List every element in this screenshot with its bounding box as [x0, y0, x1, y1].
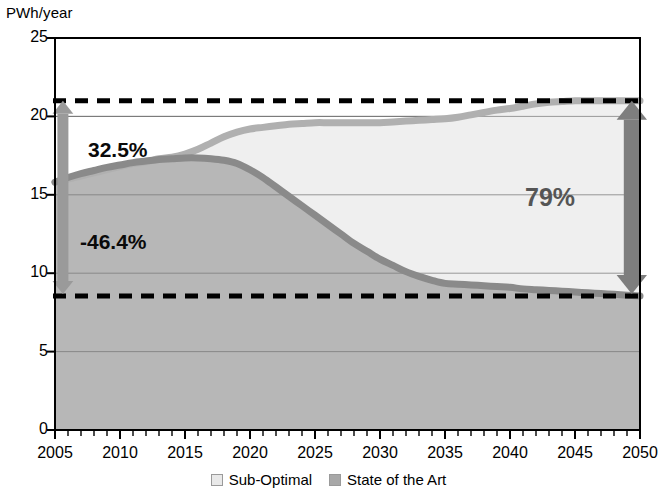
legend-item-state-of-the-art: State of the Art: [329, 471, 446, 488]
x-tick-label: 2025: [285, 444, 345, 462]
y-tick-label: 20: [8, 106, 48, 124]
x-tick-label: 2045: [545, 444, 605, 462]
y-axis-line: [54, 37, 56, 431]
x-tick-label: 2015: [155, 444, 215, 462]
x-tick-label: 2030: [350, 444, 410, 462]
legend-swatch-state-of-the-art-icon: [329, 474, 341, 486]
y-tick-label: 10: [8, 263, 48, 281]
annotation-savings: 79%: [525, 183, 575, 212]
y-tick-label: 15: [8, 185, 48, 203]
x-tick-label: 2050: [610, 444, 662, 462]
x-tick-label: 2035: [415, 444, 475, 462]
y-tick-label: 0: [8, 420, 48, 438]
y-tick-label: 5: [8, 342, 48, 360]
legend-swatch-sub-optimal-icon: [211, 474, 223, 486]
x-tick-label: 2040: [480, 444, 540, 462]
annotation-reduction: -46.4%: [80, 230, 147, 254]
legend-item-sub-optimal: Sub-Optimal: [211, 471, 312, 488]
x-axis-line: [54, 429, 641, 431]
x-tick-label: 2020: [220, 444, 280, 462]
plot-frame-top: [55, 37, 641, 39]
legend-label-sub-optimal: Sub-Optimal: [229, 471, 312, 488]
plot-frame-right: [639, 37, 641, 431]
legend-label-state-of-the-art: State of the Art: [347, 471, 446, 488]
x-tick-label: 2005: [25, 444, 85, 462]
annotation-growth-gap: 32.5%: [88, 138, 148, 162]
x-tick-label: 2010: [90, 444, 150, 462]
y-tick-label: 25: [8, 28, 48, 46]
chart-legend: Sub-Optimal State of the Art: [0, 471, 657, 488]
